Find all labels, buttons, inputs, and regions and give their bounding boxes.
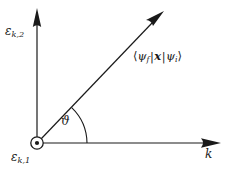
matrix-element-close-bracket: ⟩ (178, 49, 183, 63)
matrix-element-vector-line (41, 23, 152, 139)
figure-canvas: εk,2 εk,1 k ϑ ⟨ψf|x|ψi⟩ (0, 0, 240, 169)
horizontal-axis-label-text: k (205, 147, 212, 161)
matrix-element-vector-arrowhead (146, 11, 164, 26)
matrix-element-psi-final: ψ (138, 49, 147, 63)
out-of-page-axis-label: εk,1 (11, 151, 30, 164)
angle-arc (72, 108, 87, 143)
matrix-element-label: ⟨ψf|x|ψi⟩ (133, 51, 182, 64)
vertical-axis-arrowhead (33, 8, 41, 27)
angle-label: ϑ (61, 115, 70, 127)
origin-circle-dot-icon-dot (35, 141, 39, 145)
horizontal-axis-label: k (205, 148, 212, 160)
matrix-element-psi-initial: ψ (166, 49, 175, 63)
diagram-vector-graphics (0, 0, 240, 169)
vertical-axis-label: εk,2 (5, 25, 24, 38)
angle-label-text: ϑ (61, 114, 70, 128)
out-of-page-axis-label-subscript: k,1 (17, 155, 30, 165)
vertical-axis-label-subscript: k,2 (11, 29, 24, 39)
